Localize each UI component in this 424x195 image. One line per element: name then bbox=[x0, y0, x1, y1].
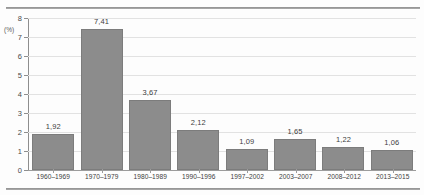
figure-bottom-rule bbox=[6, 188, 420, 190]
bar-group: 1,65 bbox=[271, 18, 319, 170]
bar-value-label: 3,67 bbox=[142, 88, 157, 97]
bar[interactable] bbox=[274, 139, 316, 170]
y-tick-6 bbox=[24, 56, 28, 57]
bar-value-label: 7,41 bbox=[94, 17, 109, 26]
bar-value-label: 1,92 bbox=[46, 122, 61, 131]
y-tick-label: 8 bbox=[18, 14, 22, 23]
bar[interactable] bbox=[371, 150, 413, 170]
y-axis-unit-label: (%) bbox=[4, 26, 14, 33]
bar-group: 1,09 bbox=[223, 18, 271, 170]
bar[interactable] bbox=[177, 130, 219, 170]
bar-group: 1,22 bbox=[319, 18, 367, 170]
y-tick-3 bbox=[24, 113, 28, 114]
x-category-label: 1970–1979 bbox=[78, 173, 127, 180]
bar[interactable] bbox=[32, 134, 74, 170]
bar-group: 7,41 bbox=[77, 18, 125, 170]
x-category: 1960–1969 bbox=[29, 173, 78, 180]
bar[interactable] bbox=[81, 29, 123, 170]
bar-series: 1,927,413,672,121,091,651,221,06 bbox=[29, 18, 416, 170]
x-axis-category-labels: 1960–19691970–19791980–19891990–19961997… bbox=[29, 173, 417, 180]
x-category: 1997–2002 bbox=[223, 173, 272, 180]
x-category-label: 1990–1996 bbox=[175, 173, 224, 180]
y-tick-label: 4 bbox=[18, 90, 22, 99]
bar-group: 2,12 bbox=[174, 18, 222, 170]
x-category: 1980–1989 bbox=[126, 173, 175, 180]
x-category-label: 2008–2012 bbox=[320, 173, 369, 180]
x-tick bbox=[102, 169, 103, 173]
bar[interactable] bbox=[129, 100, 171, 170]
y-tick-label: 6 bbox=[18, 52, 22, 61]
bar-group: 1,06 bbox=[368, 18, 416, 170]
x-tick bbox=[296, 169, 297, 173]
y-tick-label: 2 bbox=[18, 128, 22, 137]
figure-top-rule bbox=[6, 7, 420, 9]
bar-value-label: 1,65 bbox=[288, 127, 303, 136]
bar-value-label: 1,22 bbox=[336, 135, 351, 144]
y-tick-1 bbox=[24, 151, 28, 152]
bar-group: 1,92 bbox=[29, 18, 77, 170]
x-category: 2013–2015 bbox=[369, 173, 418, 180]
y-tick-label: 3 bbox=[18, 109, 22, 118]
y-tick-2 bbox=[24, 132, 28, 133]
x-tick bbox=[344, 169, 345, 173]
y-tick-4 bbox=[24, 94, 28, 95]
bar-value-label: 2,12 bbox=[191, 118, 206, 127]
x-category-label: 2013–2015 bbox=[369, 173, 418, 180]
y-tick-8 bbox=[24, 18, 28, 19]
x-category-label: 1960–1969 bbox=[29, 173, 78, 180]
x-tick bbox=[199, 169, 200, 173]
x-category-label: 1997–2002 bbox=[223, 173, 272, 180]
y-tick-label: 7 bbox=[18, 33, 22, 42]
bar-group: 3,67 bbox=[126, 18, 174, 170]
x-category-label: 2003–2007 bbox=[272, 173, 321, 180]
y-tick-label: 0 bbox=[18, 166, 22, 175]
bar[interactable] bbox=[226, 149, 268, 170]
plot-area: (%) 876543210 1,927,413,672,121,091,651,… bbox=[28, 18, 416, 170]
x-category: 2008–2012 bbox=[320, 173, 369, 180]
bar-value-label: 1,09 bbox=[239, 137, 254, 146]
bar[interactable] bbox=[322, 147, 364, 170]
x-category: 1970–1979 bbox=[78, 173, 127, 180]
x-tick bbox=[393, 169, 394, 173]
figure-canvas: (%) 876543210 1,927,413,672,121,091,651,… bbox=[0, 0, 424, 195]
x-category: 2003–2007 bbox=[272, 173, 321, 180]
x-tick bbox=[53, 169, 54, 173]
x-tick bbox=[247, 169, 248, 173]
y-tick-7 bbox=[24, 37, 28, 38]
y-tick-label: 1 bbox=[18, 147, 22, 156]
bar-value-label: 1,06 bbox=[384, 138, 399, 147]
y-tick-label: 5 bbox=[18, 71, 22, 80]
x-tick bbox=[150, 169, 151, 173]
y-tick-5 bbox=[24, 75, 28, 76]
gridline-0 bbox=[28, 170, 416, 171]
x-category: 1990–1996 bbox=[175, 173, 224, 180]
y-tick-0 bbox=[24, 170, 28, 171]
x-category-label: 1980–1989 bbox=[126, 173, 175, 180]
